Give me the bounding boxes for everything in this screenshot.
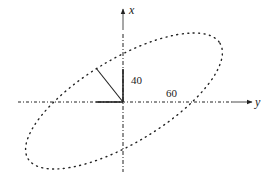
tilted-ellipse bbox=[6, 7, 241, 183]
principal-segments bbox=[96, 68, 123, 102]
dimension-40-label: 40 bbox=[131, 74, 143, 86]
ellipse-diagram: x y 40 60 bbox=[0, 0, 273, 183]
x-axis-label: x bbox=[128, 3, 135, 17]
y-axis-label: y bbox=[254, 95, 261, 109]
dimension-60-label: 60 bbox=[166, 87, 178, 99]
